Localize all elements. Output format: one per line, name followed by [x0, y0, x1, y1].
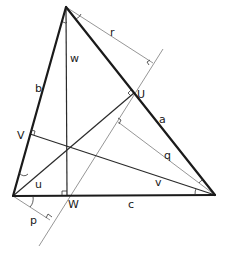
- label-seg-w: w: [70, 52, 79, 65]
- altitude-w: [66, 7, 67, 195]
- label-side-c: c: [128, 198, 134, 211]
- right-angle-mark-w: [62, 191, 67, 195]
- label-seg-p: p: [30, 214, 37, 227]
- side-c: [13, 195, 215, 196]
- label-seg-r: r: [110, 26, 115, 39]
- altitude-to-a: [13, 93, 134, 196]
- label-seg-q: q: [164, 149, 171, 162]
- right-angle-mark-r: [147, 60, 150, 65]
- right-angle-mark-p: [46, 214, 52, 218]
- label-point-V: V: [17, 129, 25, 142]
- right-angle-mark-q: [118, 118, 121, 124]
- angle-arc-q: [199, 180, 203, 183]
- label-point-W: W: [68, 198, 79, 211]
- label-side-b: b: [35, 82, 42, 95]
- label-angle-u: u: [35, 178, 42, 191]
- triangle-diagram: b w r U a V q u v W c p: [0, 0, 228, 257]
- altitude-to-b: [30, 134, 215, 195]
- label-side-a: a: [159, 113, 166, 126]
- label-point-U: U: [137, 88, 145, 101]
- side-b: [13, 7, 66, 196]
- angle-arc-p: [30, 196, 33, 207]
- construction-line: [39, 49, 163, 246]
- right-angle-mark-u: [128, 90, 131, 96]
- label-angle-v: v: [155, 176, 162, 189]
